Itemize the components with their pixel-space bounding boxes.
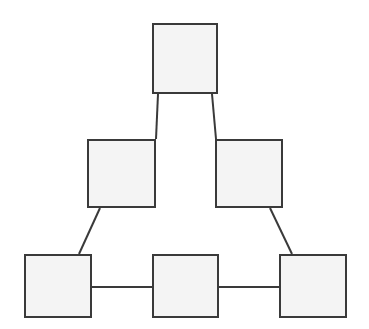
node-top[interactable] (152, 23, 218, 94)
node-label-middle-right (217, 141, 281, 206)
node-label-top (154, 25, 216, 92)
node-label-bottom-right (281, 256, 345, 316)
edge-middle-left-to-bottom-left (79, 208, 100, 254)
edge-top-to-middle-left (156, 94, 158, 139)
edge-top-to-middle-right (212, 94, 216, 139)
edge-middle-right-to-bottom-right (270, 208, 292, 254)
node-bottom-middle[interactable] (152, 254, 219, 318)
node-middle-right[interactable] (215, 139, 283, 208)
node-middle-left[interactable] (87, 139, 156, 208)
node-bottom-right[interactable] (279, 254, 347, 318)
node-label-middle-left (89, 141, 154, 206)
diagram-canvas (0, 0, 369, 329)
node-bottom-left[interactable] (24, 254, 92, 318)
node-label-bottom-middle (154, 256, 217, 316)
node-label-bottom-left (26, 256, 90, 316)
